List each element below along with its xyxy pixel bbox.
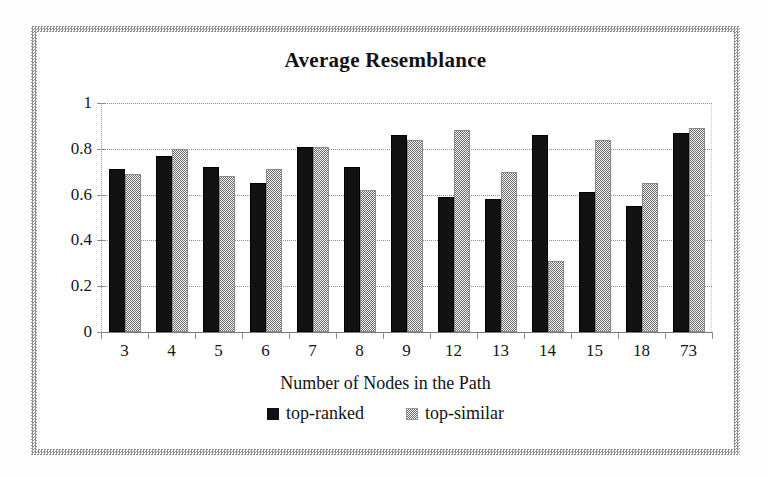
legend-label-top-ranked: top-ranked: [286, 403, 364, 424]
x-tick-mark: [289, 332, 290, 339]
bar-group: [477, 103, 524, 332]
x-tick-mark: [101, 332, 102, 339]
legend-item-top-similar: top-similar: [406, 403, 504, 424]
bar-top-similar-7: [313, 147, 329, 332]
x-tick-label-12: 12: [445, 341, 462, 361]
bar-top-similar-5: [219, 176, 235, 332]
x-tick-label-7: 7: [308, 341, 317, 361]
x-tick-label-8: 8: [355, 341, 364, 361]
bar-top-similar-12: [454, 130, 470, 332]
bar-top-similar-6: [266, 169, 282, 332]
legend-item-top-ranked: top-ranked: [267, 403, 364, 424]
bar-top-ranked-9: [391, 135, 407, 332]
bar-top-similar-15: [595, 140, 611, 332]
bar-top-similar-13: [501, 172, 517, 332]
x-tick-label-14: 14: [539, 341, 556, 361]
bar-top-similar-4: [172, 149, 188, 332]
x-tick-mark: [665, 332, 666, 339]
bar-top-ranked-12: [438, 197, 454, 332]
bar-group: [195, 103, 242, 332]
y-tick-label-0.6: 0.6: [47, 185, 101, 205]
bar-group: [101, 103, 148, 332]
chart-legend: top-ranked top-similar: [37, 403, 734, 424]
bar-top-ranked-7: [297, 147, 313, 332]
x-tick-mark: [242, 332, 243, 339]
bar-top-similar-9: [407, 140, 423, 332]
x-tick-label-3: 3: [120, 341, 129, 361]
bar-top-ranked-15: [579, 192, 595, 332]
x-tick-label-15: 15: [586, 341, 603, 361]
y-tick-label-0.4: 0.4: [47, 230, 101, 250]
y-axis-tick-labels: 00.20.40.60.81: [37, 103, 101, 332]
bar-top-similar-3: [125, 174, 141, 332]
legend-label-top-similar: top-similar: [425, 403, 504, 424]
x-tick-label-9: 9: [402, 341, 411, 361]
bar-top-ranked-5: [203, 167, 219, 332]
bar-top-similar-8: [360, 190, 376, 332]
bar-group: [148, 103, 195, 332]
bar-top-ranked-73: [673, 133, 689, 332]
y-tick-label-1: 1: [47, 93, 101, 113]
x-tick-mark: [336, 332, 337, 339]
bar-top-ranked-6: [250, 183, 266, 332]
legend-swatch-icon-top-ranked: [267, 408, 279, 420]
x-tick-label-6: 6: [261, 341, 270, 361]
y-tick-label-0.8: 0.8: [47, 139, 101, 159]
chart-title: Average Resemblance: [37, 48, 734, 73]
x-tick-mark: [524, 332, 525, 339]
x-axis-title: Number of Nodes in the Path: [37, 373, 734, 394]
bar-group: [430, 103, 477, 332]
bars-layer: [101, 103, 712, 332]
x-tick-mark: [618, 332, 619, 339]
y-tick-label-0: 0: [47, 322, 101, 342]
x-tick-label-18: 18: [633, 341, 650, 361]
x-tick-mark: [477, 332, 478, 339]
plot-area: [101, 103, 712, 332]
bar-top-similar-14: [548, 261, 564, 332]
bar-top-similar-73: [689, 128, 705, 332]
bar-group: [336, 103, 383, 332]
scanned-page-background: Average Resemblance 00.20.40.60.81 34567…: [0, 0, 768, 477]
y-tick-label-0.2: 0.2: [47, 276, 101, 296]
x-axis-tick-marks: [101, 332, 712, 340]
x-tick-mark: [712, 332, 713, 339]
bar-group: [665, 103, 712, 332]
x-axis-tick-labels: 3456789121314151873: [101, 341, 712, 369]
bar-top-ranked-13: [485, 199, 501, 332]
bar-top-ranked-3: [109, 169, 125, 332]
bar-group: [242, 103, 289, 332]
x-tick-mark: [148, 332, 149, 339]
x-tick-label-5: 5: [214, 341, 223, 361]
x-tick-mark: [430, 332, 431, 339]
x-tick-mark: [571, 332, 572, 339]
bar-group: [289, 103, 336, 332]
x-tick-mark: [195, 332, 196, 339]
legend-swatch-icon-top-similar: [406, 408, 418, 420]
bar-top-ranked-18: [626, 206, 642, 332]
x-tick-mark: [383, 332, 384, 339]
x-tick-label-13: 13: [492, 341, 509, 361]
bar-top-ranked-8: [344, 167, 360, 332]
x-tick-label-4: 4: [167, 341, 176, 361]
figure-inner: Average Resemblance 00.20.40.60.81 34567…: [37, 32, 734, 449]
x-tick-label-73: 73: [680, 341, 697, 361]
bar-group: [524, 103, 571, 332]
bar-group: [571, 103, 618, 332]
bar-top-ranked-14: [532, 135, 548, 332]
bar-group: [618, 103, 665, 332]
bar-group: [383, 103, 430, 332]
bar-top-ranked-4: [156, 156, 172, 332]
figure-frame: Average Resemblance 00.20.40.60.81 34567…: [31, 26, 740, 455]
bar-top-similar-18: [642, 183, 658, 332]
